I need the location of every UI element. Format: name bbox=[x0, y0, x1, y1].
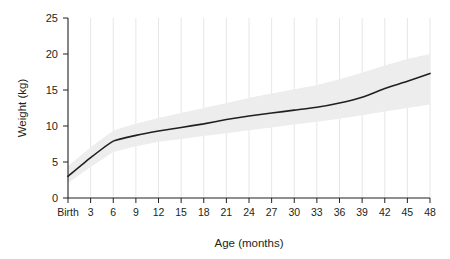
y-axis-tick-labels: 0510152025 bbox=[46, 12, 58, 204]
x-tick-label-6: 6 bbox=[110, 206, 116, 218]
y-tick-label-25: 25 bbox=[46, 12, 58, 24]
x-tick-label-45: 45 bbox=[402, 206, 414, 218]
x-tick-label-33: 33 bbox=[311, 206, 323, 218]
y-axis-title: Weight (kg) bbox=[16, 79, 28, 138]
x-tick-label-15: 15 bbox=[175, 206, 187, 218]
x-tick-label-27: 27 bbox=[266, 206, 278, 218]
x-tick-label-Birth: Birth bbox=[57, 206, 79, 218]
y-tick-label-20: 20 bbox=[46, 48, 58, 60]
x-axis-tick-labels: Birth36912151821242730333639424548 bbox=[57, 206, 436, 218]
y-tick-label-5: 5 bbox=[52, 156, 58, 168]
x-tick-label-9: 9 bbox=[133, 206, 139, 218]
chart-canvas: 0510152025 Birth369121518212427303336394… bbox=[0, 0, 450, 259]
y-tick-label-10: 10 bbox=[46, 120, 58, 132]
x-tick-label-12: 12 bbox=[153, 206, 165, 218]
y-tick-label-15: 15 bbox=[46, 84, 58, 96]
x-tick-label-30: 30 bbox=[288, 206, 300, 218]
x-axis-title: Age (months) bbox=[214, 237, 283, 249]
x-tick-label-48: 48 bbox=[424, 206, 436, 218]
growth-chart: 0510152025 Birth369121518212427303336394… bbox=[0, 0, 450, 259]
x-tick-label-3: 3 bbox=[88, 206, 94, 218]
x-tick-label-42: 42 bbox=[379, 206, 391, 218]
x-tick-label-18: 18 bbox=[198, 206, 210, 218]
y-axis-ticks bbox=[63, 18, 68, 198]
x-tick-label-36: 36 bbox=[334, 206, 346, 218]
x-axis-ticks bbox=[68, 198, 430, 203]
y-tick-label-0: 0 bbox=[52, 192, 58, 204]
x-tick-label-39: 39 bbox=[356, 206, 368, 218]
x-tick-label-21: 21 bbox=[221, 206, 233, 218]
x-tick-label-24: 24 bbox=[243, 206, 255, 218]
